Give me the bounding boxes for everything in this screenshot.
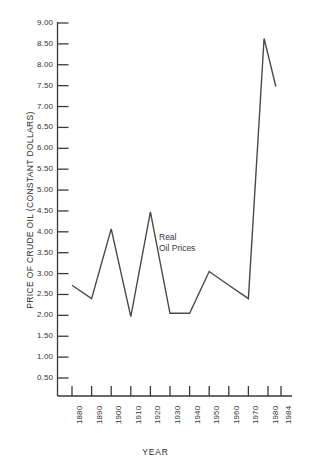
x-axis-tick-label: 1890 [96, 406, 104, 424]
x-axis-tick-label: 1950 [213, 406, 221, 424]
y-axis-tick-label: 8.00 [22, 61, 53, 69]
series-annotation-real-oil-prices: Real Oil Prices [159, 232, 195, 254]
series-line-real-oil-prices [72, 38, 276, 316]
x-axis-tick-label: 1984 [285, 406, 293, 424]
x-axis-tick-label: 1960 [233, 406, 241, 424]
x-axis-tick-label: 1930 [174, 406, 182, 424]
chart-figure: 0.501.001.502.002.503.003.504.004.505.00… [0, 0, 311, 471]
x-axis-tick-label: 1880 [76, 406, 84, 424]
x-axis-ticks [72, 386, 281, 396]
y-axis-tick-label: 8.50 [22, 40, 53, 48]
y-axis-title: PRICE OF CRUDE OIL (CONSTANT DOLLARS) [25, 95, 35, 325]
x-axis-title: YEAR [0, 447, 311, 457]
y-axis-tick-label: 1.50 [22, 332, 53, 340]
x-axis-tick-label: 1940 [194, 406, 202, 424]
annotation-line-1: Real [159, 232, 195, 243]
annotation-line-2: Oil Prices [159, 243, 195, 254]
y-axis-ticks [58, 23, 69, 378]
x-axis-tick-label: 1900 [115, 406, 123, 424]
x-axis-tick-label: 1980 [272, 406, 280, 424]
y-axis-tick-label: 0.50 [22, 374, 53, 382]
x-axis-tick-label: 1970 [252, 406, 260, 424]
x-axis-tick-label: 1910 [135, 406, 143, 424]
y-axis-tick-label: 7.50 [22, 82, 53, 90]
y-axis-tick-label: 9.00 [22, 19, 53, 27]
x-axis-tick-label: 1920 [154, 406, 162, 424]
y-axis-tick-label: 1.00 [22, 353, 53, 361]
